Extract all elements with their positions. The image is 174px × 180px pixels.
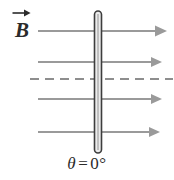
field-line-1: [38, 26, 167, 37]
angle-symbol: θ: [67, 154, 76, 173]
angle-equals: =: [76, 154, 90, 173]
angle-caption: θ=0°: [0, 154, 174, 174]
field-line-4-arrowhead: [149, 127, 160, 137]
field-line-2-arrowhead: [151, 57, 162, 67]
angle-value: 0°: [90, 154, 106, 173]
field-vector-symbol: B: [15, 20, 29, 41]
magnetic-flux-diagram: B θ=0°: [0, 0, 174, 180]
surface-edge-on: [95, 11, 102, 153]
field-line-1-arrowhead: [155, 26, 167, 37]
field-line-3-arrowhead: [151, 94, 162, 104]
vector-arrow-icon: [12, 8, 31, 17]
vector-arrow-head: [24, 10, 31, 17]
field-vector-label: B: [12, 8, 42, 42]
